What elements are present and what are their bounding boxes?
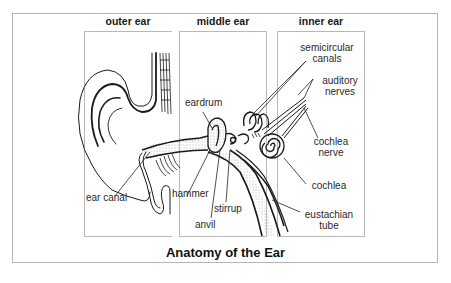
label-cochlea: cochlea [307, 180, 351, 191]
pinna-shape [79, 53, 171, 214]
cochlea-shape [260, 134, 284, 158]
label-eustachian-line1: eustachian [298, 209, 360, 220]
label-auditory-line1: auditory [318, 75, 362, 86]
label-stirrup: stirrup [214, 203, 242, 214]
ear-illustration [0, 0, 451, 283]
auditory-nerves [262, 98, 308, 138]
label-semicircular-canals: semicircular canals [295, 42, 359, 64]
label-auditory-nerves: auditory nerves [318, 75, 362, 97]
label-semicircular-line1: semicircular [295, 42, 359, 53]
diagram-caption: Anatomy of the Ear [0, 245, 451, 260]
label-cochlea-nerve-line1: cochlea [309, 136, 353, 147]
label-ear-canal: ear canal [86, 192, 127, 203]
label-auditory-line2: nerves [318, 86, 362, 97]
label-eardrum: eardrum [185, 97, 222, 108]
label-anvil: anvil [195, 219, 216, 230]
label-semicircular-line2: canals [295, 53, 359, 64]
label-eustachian-tube: eustachian tube [298, 209, 360, 231]
label-cochlea-nerve-line2: nerve [309, 147, 353, 158]
label-eustachian-line2: tube [298, 220, 360, 231]
label-cochlea-nerve: cochlea nerve [309, 136, 353, 158]
label-hammer: hammer [172, 188, 209, 199]
